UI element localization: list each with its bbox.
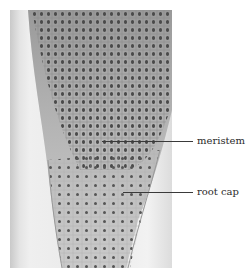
root-tip-micrograph — [10, 10, 172, 268]
root-cap-label: root cap — [197, 186, 239, 198]
meristem-label: meristem — [197, 135, 245, 147]
figure: meristem root cap — [0, 0, 247, 279]
root-cap-leader-line — [123, 192, 193, 193]
meristem-leader-line — [102, 141, 193, 142]
root-tissue-image — [10, 10, 172, 268]
